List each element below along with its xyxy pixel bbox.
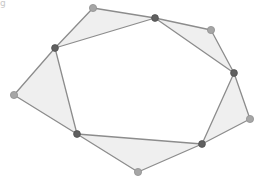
outer-point-b[interactable] — [207, 26, 214, 33]
outer-point-d[interactable] — [134, 168, 141, 175]
outer-point-a[interactable] — [89, 4, 96, 11]
inner-point-t[interactable] — [52, 45, 59, 52]
inner-point-p[interactable] — [152, 15, 159, 22]
triangle-right — [202, 73, 250, 144]
triangle-bottom — [77, 134, 202, 172]
inner-point-q[interactable] — [231, 70, 238, 77]
polygon-figure — [0, 0, 266, 180]
triangle-top-left — [55, 8, 155, 48]
triangle-left — [14, 48, 77, 134]
inner-point-s[interactable] — [74, 131, 81, 138]
geometry-canvas: g — [0, 0, 266, 180]
outer-point-e[interactable] — [10, 91, 17, 98]
triangle-top-right — [155, 18, 234, 73]
triangles-layer — [14, 8, 250, 172]
outer-point-c[interactable] — [246, 115, 253, 122]
inner-point-r[interactable] — [199, 141, 206, 148]
